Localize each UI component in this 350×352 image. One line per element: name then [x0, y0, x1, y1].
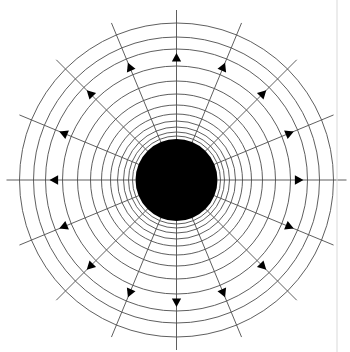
figure-root [0, 0, 350, 352]
radial-field-diagram [0, 0, 350, 352]
central-black-disk-group [136, 139, 218, 221]
central-black-disk [136, 139, 218, 221]
